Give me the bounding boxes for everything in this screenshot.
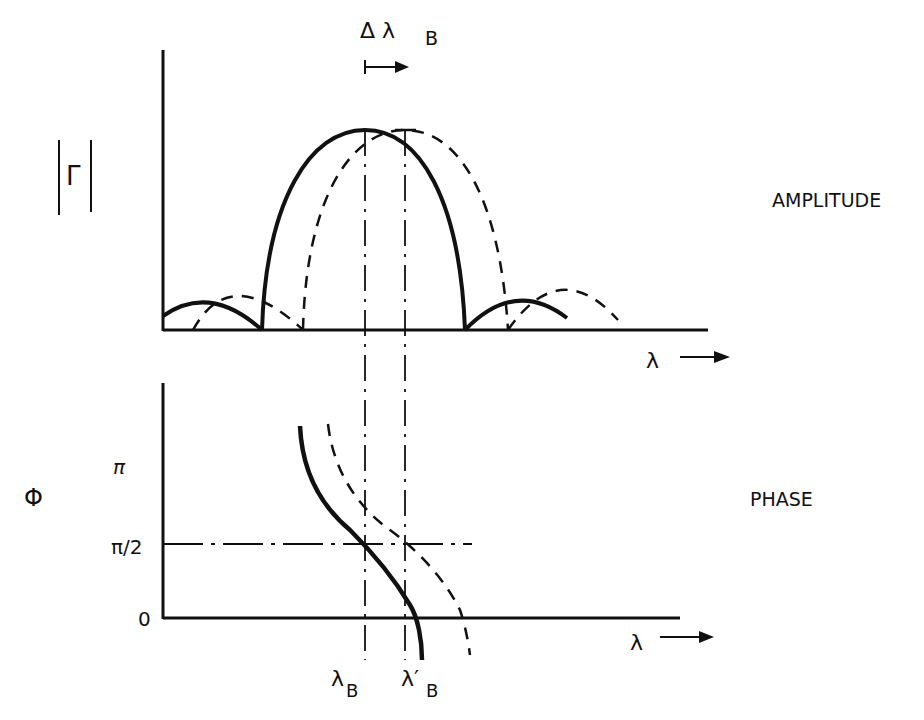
lambda-b-prime-label-sub: B bbox=[426, 680, 438, 701]
shift-arrow-head bbox=[395, 61, 409, 73]
abs-gamma-label: Γ bbox=[66, 161, 81, 191]
shift-label: Δ λ bbox=[360, 18, 395, 43]
lambda-b-label-sub: B bbox=[346, 680, 358, 701]
tick-pi: π bbox=[113, 455, 126, 479]
amplitude-x-arrow-head bbox=[714, 351, 730, 363]
lambda-b-prime-label: λ′ bbox=[401, 666, 419, 691]
tick-zero: 0 bbox=[138, 607, 151, 631]
amplitude-panel bbox=[59, 50, 730, 660]
phase-x-arrow-head bbox=[699, 631, 714, 643]
lambda-b-label: λ bbox=[331, 666, 344, 691]
phase-side-label: PHASE bbox=[750, 488, 813, 510]
phase-panel bbox=[163, 383, 714, 660]
phi-label: Φ bbox=[24, 484, 43, 512]
bragg-diagram: Δ λ B Γ AMPLITUDE λ Φ π π/2 0 PHASE λ λ … bbox=[0, 0, 924, 720]
phase-solid-curve bbox=[300, 426, 422, 660]
phase-x-label: λ bbox=[630, 630, 643, 655]
amplitude-side-label: AMPLITUDE bbox=[772, 189, 881, 211]
shift-label-sub: B bbox=[425, 27, 438, 49]
phase-dashed-curve bbox=[328, 424, 470, 655]
tick-pi-half: π/2 bbox=[111, 535, 143, 559]
amplitude-x-label: λ bbox=[646, 348, 659, 373]
